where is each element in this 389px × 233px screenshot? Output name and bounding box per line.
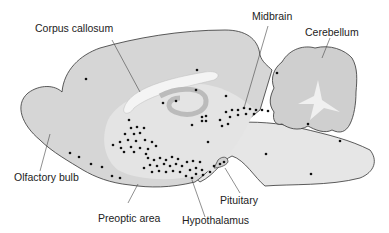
label-preoptic-area: Preoptic area [98, 213, 160, 224]
brain-diagram: Corpus callosum Midbrain Cerebellum Olfa… [0, 0, 389, 233]
label-hypothalamus: Hypothalamus [182, 215, 249, 226]
label-cerebellum: Cerebellum [305, 27, 359, 38]
label-olfactory-bulb: Olfactory bulb [14, 172, 79, 183]
label-corpus-callosum: Corpus callosum [35, 23, 113, 34]
cerebellum-shape [270, 47, 357, 132]
label-midbrain: Midbrain [252, 11, 292, 22]
label-pituitary: Pituitary [220, 195, 258, 206]
